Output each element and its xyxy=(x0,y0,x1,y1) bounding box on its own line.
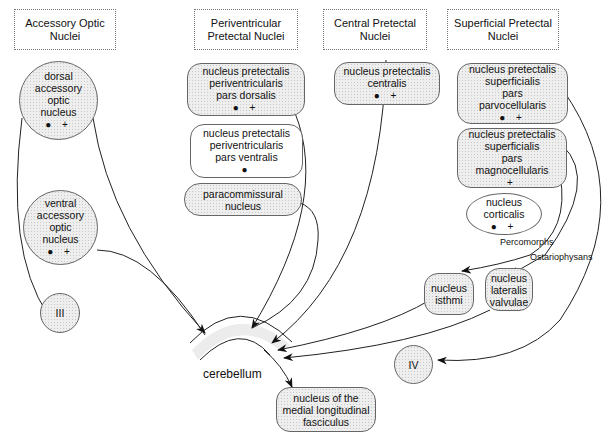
node-nucleus-pretectalis-periventricularis-pars-ventralis: nucleus pretectalis periventricularis pa… xyxy=(190,124,303,178)
node-text: corticalis xyxy=(484,208,525,220)
node-text: nucleus of the xyxy=(293,392,358,404)
marker-symbols: ● + xyxy=(45,119,72,131)
node-nucleus-pretectalis-centralis: nucleus pretectalis centralis ● + xyxy=(334,62,440,105)
node-text: nucleus pretectalis xyxy=(344,65,431,77)
node-text: ventral xyxy=(45,197,77,209)
node-text: periventricularis xyxy=(209,77,283,89)
node-paracommissural-nucleus: paracommissural nucleus xyxy=(184,183,302,216)
node-text: pars dorsalis xyxy=(216,89,276,101)
header-line: Periventricular xyxy=(207,17,284,30)
node-text: accessory xyxy=(35,82,82,94)
node-text: nucleus xyxy=(431,282,467,294)
node-text: nucleus xyxy=(486,196,522,208)
node-text: pars ventralis xyxy=(215,151,277,163)
node-text: periventricularis xyxy=(210,139,284,151)
node-text: paracommissural xyxy=(203,188,283,200)
node-text: dorsal xyxy=(44,70,73,82)
marker-symbols: + xyxy=(507,177,517,189)
node-text: nucleus pretectalis xyxy=(469,63,556,75)
cerebellum-label: cerebellum xyxy=(203,367,262,381)
node-IV: IV xyxy=(394,345,433,384)
header-accessory-optic-nuclei: Accessory OpticNuclei xyxy=(14,9,116,50)
marker-symbols: ● + xyxy=(491,221,518,233)
node-text: pars xyxy=(502,87,522,99)
node-text: magnocellularis xyxy=(476,164,549,176)
node-text: medial longitudinal xyxy=(283,404,370,416)
node-text: fasciculus xyxy=(303,416,349,428)
node-text: IV xyxy=(409,359,419,371)
header-line: Nuclei xyxy=(25,30,104,43)
header-line: Superficial Pretectal xyxy=(454,17,552,30)
node-nucleus-corticalis: nucleus corticalis ● + xyxy=(466,193,542,235)
node-text: centralis xyxy=(367,77,406,89)
node-text: isthmi xyxy=(435,294,462,306)
node-nucleus-isthmi: nucleus isthmi xyxy=(424,273,474,315)
marker-symbols: ● + xyxy=(47,246,74,258)
node-text: nucleus pretectalis xyxy=(203,127,290,139)
node-III: III xyxy=(40,293,80,333)
node-text: pars xyxy=(502,152,522,164)
header-central-pretectal-nuclei: Central PretectalNuclei xyxy=(323,9,427,50)
node-nucleus-of-the-medial-longitudinal-fasciculus: nucleus of the medial longitudinal fasci… xyxy=(276,387,376,432)
node-nucleus-pretectalis-superficialis-pars-magnocellularis: nucleus pretectalis superficialis pars m… xyxy=(457,128,567,188)
node-text: nucleus pretectalis xyxy=(469,128,556,140)
node-text: optic xyxy=(49,221,71,233)
header-line: Nuclei xyxy=(454,30,552,43)
edge-label-percomorphs: Percomorphs xyxy=(500,237,554,247)
node-text: superficialis xyxy=(485,75,540,87)
header-line: Accessory Optic xyxy=(25,17,104,30)
node-text: valvulae xyxy=(490,296,529,308)
node-ventral-accessory-optic-nucleus: ventral accessory optic nucleus ● + xyxy=(23,190,98,265)
edge-label-ostariophysans: Ostariophysans xyxy=(530,252,593,262)
node-nucleus-pretectalis-periventricularis-pars-dorsalis: nucleus pretectalis periventricularis pa… xyxy=(187,63,305,116)
header-line: Pretectal Nuclei xyxy=(207,30,284,43)
marker-symbols: ● + xyxy=(499,112,526,124)
node-text: nucleus pretectalis xyxy=(203,65,290,77)
node-text: nucleus xyxy=(491,272,527,284)
node-text: nucleus xyxy=(40,106,76,118)
header-periventricular-pretectal-nuclei: PeriventricularPretectal Nuclei xyxy=(194,9,298,50)
cerebellum-shape xyxy=(192,324,290,360)
node-text: nucleus xyxy=(225,200,261,212)
node-text: nucleus xyxy=(42,233,78,245)
marker-symbols: ● xyxy=(241,164,251,176)
node-text: III xyxy=(56,307,65,319)
node-dorsal-accessory-optic-nucleus: dorsal accessory optic nucleus ● + xyxy=(19,61,98,140)
header-superficial-pretectal-nuclei: Superficial PretectalNuclei xyxy=(447,9,559,50)
node-text: parvocellularis xyxy=(479,99,546,111)
node-nucleus-lateralis-valvulae: nucleus lateralis valvulae xyxy=(485,268,533,311)
header-line: Nuclei xyxy=(334,30,416,43)
marker-symbols: ● + xyxy=(374,90,401,102)
node-text: lateralis xyxy=(491,284,527,296)
node-nucleus-pretectalis-superficialis-pars-parvocellularis: nucleus pretectalis superficialis pars p… xyxy=(457,63,568,124)
marker-symbols: ● + xyxy=(233,102,260,114)
node-text: accessory xyxy=(37,209,84,221)
header-line: Central Pretectal xyxy=(334,17,416,30)
node-text: superficialis xyxy=(485,140,540,152)
node-text: optic xyxy=(47,94,69,106)
